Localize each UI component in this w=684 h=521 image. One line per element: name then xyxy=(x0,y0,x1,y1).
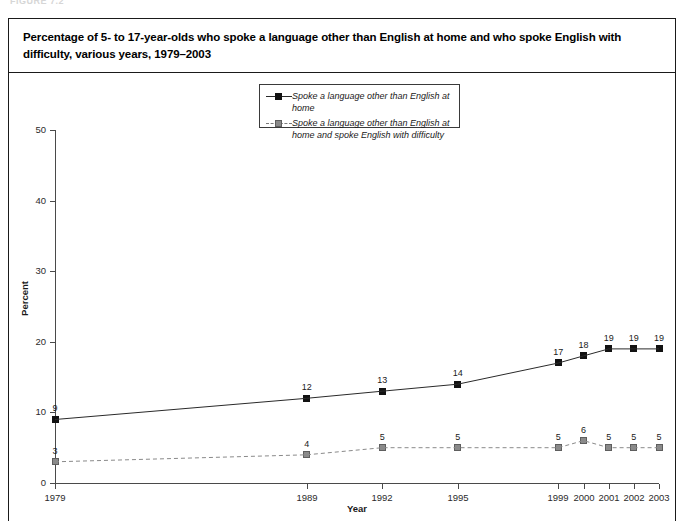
data-point-label: 9 xyxy=(43,403,67,413)
x-tick-label-1989: 1989 xyxy=(287,492,327,503)
x-axis-title: Year xyxy=(317,503,397,514)
x-tick-mark xyxy=(634,484,635,489)
data-point-label: 17 xyxy=(546,347,570,357)
y-tick-label-50: 50 xyxy=(20,124,46,135)
data-point-label: 5 xyxy=(370,432,394,442)
x-axis-line xyxy=(55,483,659,484)
y-tick-mark xyxy=(50,271,55,272)
data-point-marker xyxy=(303,451,310,458)
legend-swatch-gray-square-icon xyxy=(266,118,292,129)
data-point-label: 5 xyxy=(446,432,470,442)
y-tick-mark xyxy=(50,201,55,202)
x-tick-mark xyxy=(584,484,585,489)
x-tick-label-1995: 1995 xyxy=(438,492,478,503)
line-chart: Percent Year 010203040501979198919921995… xyxy=(0,0,684,521)
data-point-marker xyxy=(303,395,310,402)
y-axis-title: Percent xyxy=(19,269,30,329)
x-tick-mark xyxy=(55,484,56,489)
data-point-label: 5 xyxy=(647,432,671,442)
x-tick-mark xyxy=(558,484,559,489)
data-point-label: 14 xyxy=(446,368,470,378)
y-axis-line xyxy=(55,130,56,484)
data-point-marker xyxy=(605,444,612,451)
data-point-marker xyxy=(454,381,461,388)
data-point-label: 5 xyxy=(622,432,646,442)
data-point-label: 4 xyxy=(295,439,319,449)
series-line-1 xyxy=(55,441,659,462)
data-point-marker xyxy=(52,458,59,465)
legend-item-0[interactable]: Spoke a language other than English at h… xyxy=(266,90,453,114)
x-tick-mark xyxy=(458,484,459,489)
data-point-label: 6 xyxy=(572,425,596,435)
data-point-marker xyxy=(52,416,59,423)
legend-label-1: Spoke a language other than English at h… xyxy=(292,117,453,141)
data-point-label: 13 xyxy=(370,375,394,385)
x-tick-mark xyxy=(382,484,383,489)
x-tick-label-1979: 1979 xyxy=(35,492,75,503)
x-tick-mark xyxy=(307,484,308,489)
x-tick-label-2003: 2003 xyxy=(639,492,679,503)
data-point-label: 5 xyxy=(597,432,621,442)
data-point-marker xyxy=(580,352,587,359)
y-tick-mark xyxy=(50,130,55,131)
series-line-0 xyxy=(55,349,659,420)
data-point-marker xyxy=(555,444,562,451)
data-point-marker xyxy=(580,437,587,444)
x-tick-mark xyxy=(659,484,660,489)
y-tick-label-30: 30 xyxy=(20,265,46,276)
y-tick-label-20: 20 xyxy=(20,336,46,347)
data-point-marker xyxy=(630,444,637,451)
data-point-label: 19 xyxy=(647,333,671,343)
y-tick-mark xyxy=(50,342,55,343)
x-tick-mark xyxy=(609,484,610,489)
data-point-marker xyxy=(630,345,637,352)
chart-legend: Spoke a language other than English at h… xyxy=(259,84,460,128)
data-point-label: 19 xyxy=(622,333,646,343)
data-point-marker xyxy=(379,444,386,451)
data-point-label: 5 xyxy=(546,432,570,442)
data-point-label: 12 xyxy=(295,382,319,392)
legend-label-0: Spoke a language other than English at h… xyxy=(292,90,453,114)
y-tick-label-0: 0 xyxy=(20,477,46,488)
data-point-label: 19 xyxy=(597,333,621,343)
legend-item-1[interactable]: Spoke a language other than English at h… xyxy=(266,117,453,141)
legend-swatch-black-square-icon xyxy=(266,91,292,102)
data-point-marker xyxy=(656,444,663,451)
data-point-marker xyxy=(605,345,612,352)
data-point-marker xyxy=(656,345,663,352)
data-point-marker xyxy=(555,359,562,366)
data-point-marker xyxy=(379,388,386,395)
x-tick-label-1992: 1992 xyxy=(362,492,402,503)
data-point-label: 3 xyxy=(43,446,67,456)
data-point-marker xyxy=(454,444,461,451)
y-tick-label-40: 40 xyxy=(20,195,46,206)
data-point-label: 18 xyxy=(572,340,596,350)
